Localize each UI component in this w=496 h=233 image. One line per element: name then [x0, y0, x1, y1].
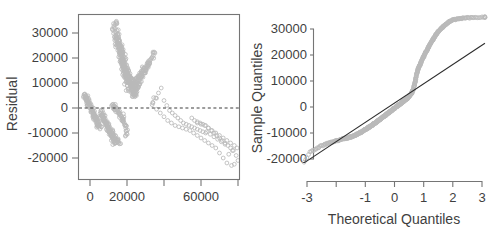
xtick-0: 0 [86, 189, 93, 204]
qq-ytick-0: 0 [300, 99, 307, 114]
qq-y-axis-label: Sample Quantiles [249, 43, 265, 154]
qq-data-points [302, 15, 487, 165]
residual-data-points [82, 19, 240, 167]
xtick-20000: 20000 [109, 189, 145, 204]
qq-ytick-20000: 20000 [271, 47, 307, 62]
ytick-m20000: -20000 [28, 150, 68, 165]
qq-ytick-m20000: -20000 [267, 151, 307, 166]
qq-x-axis [307, 181, 482, 187]
ytick-0: 0 [61, 100, 68, 115]
ytick-20000: 20000 [32, 50, 68, 65]
residual-y-ticks [72, 33, 78, 158]
figure-container: Residual 30000 20000 10000 0 -10000 -200… [0, 0, 496, 233]
residual-y-axis-label: Residual [4, 77, 20, 131]
residual-y-ticklabels: 30000 20000 10000 0 -10000 -20000 [28, 25, 68, 165]
residual-x-ticks [90, 180, 238, 186]
qq-plot-svg: Sample Quantiles 30000 20000 10000 0 -10… [248, 0, 496, 233]
qq-ytick-10000: 10000 [271, 73, 307, 88]
residual-scatter-svg: Residual 30000 20000 10000 0 -10000 -200… [0, 0, 248, 233]
residual-scatter-panel: Residual 30000 20000 10000 0 -10000 -200… [0, 0, 248, 233]
qq-x-axis-label: Theoretical Quantiles [328, 211, 460, 227]
qq-xtick-m3: -3 [301, 190, 313, 205]
qq-xtick-3: 3 [478, 190, 485, 205]
residual-plot-frame [79, 15, 240, 180]
qq-xtick-2: 2 [449, 190, 456, 205]
ytick-10000: 10000 [32, 75, 68, 90]
qq-ytick-m10000: -10000 [267, 125, 307, 140]
qq-reference-line [304, 43, 485, 163]
qq-xtick-1: 1 [420, 190, 427, 205]
xtick-60000: 60000 [183, 189, 219, 204]
ytick-30000: 30000 [32, 25, 68, 40]
ytick-m10000: -10000 [28, 125, 68, 140]
qq-xtick-m1: -1 [360, 190, 372, 205]
qq-x-ticklabels: -3 -1 0 1 2 3 [301, 190, 485, 205]
qq-plot-panel: Sample Quantiles 30000 20000 10000 0 -10… [248, 0, 496, 233]
qq-y-ticklabels: 30000 20000 10000 0 -10000 -20000 [267, 21, 307, 166]
residual-x-ticklabels: 0 20000 60000 [86, 189, 219, 204]
qq-ytick-30000: 30000 [271, 21, 307, 36]
qq-xtick-0: 0 [391, 190, 398, 205]
qq-y-axis [310, 29, 314, 159]
